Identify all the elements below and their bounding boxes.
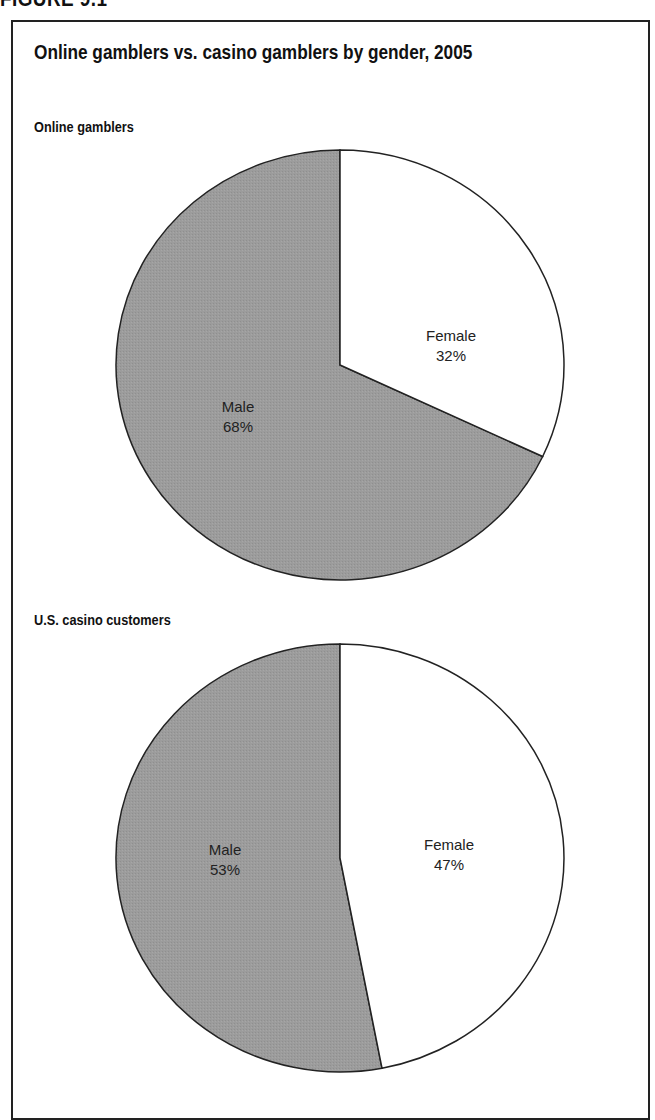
- label-male-online-pct: 68%: [223, 418, 253, 435]
- pie-casino-customers: Female 47% Male 53%: [116, 644, 564, 1072]
- label-female-casino-pct: 47%: [434, 856, 464, 873]
- pie-online-gamblers: Female 32% Male 68%: [116, 150, 564, 580]
- label-female-online-pct: 32%: [436, 347, 466, 364]
- label-male-casino-pct: 53%: [210, 861, 240, 878]
- label-male-casino-name: Male: [209, 841, 242, 858]
- label-female-casino-name: Female: [424, 836, 474, 853]
- label-female-online-name: Female: [426, 327, 476, 344]
- label-male-online-name: Male: [222, 398, 255, 415]
